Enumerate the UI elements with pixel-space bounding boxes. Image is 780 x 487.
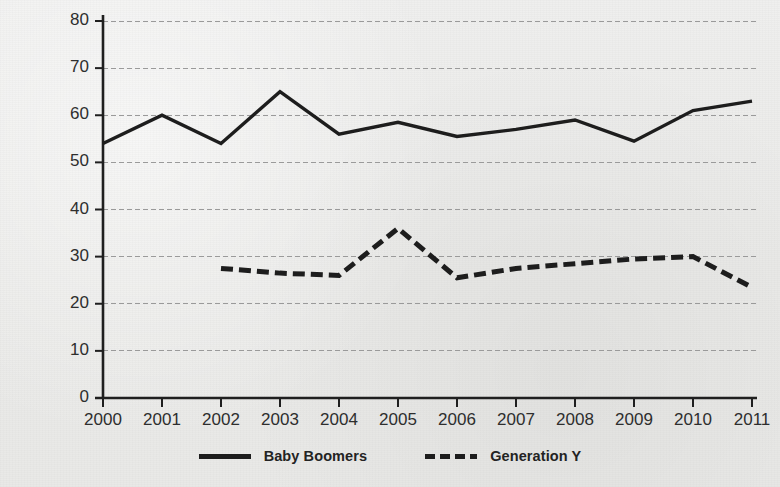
y-axis-tick-label: 50	[43, 151, 89, 171]
series-line-generation-y	[221, 228, 752, 287]
x-axis-tick-label: 2007	[486, 410, 546, 430]
legend-label-baby-boomers: Baby Boomers	[264, 448, 368, 464]
chart-figure: % agree 01020304050607080200020012002200…	[0, 0, 780, 487]
legend-item-baby-boomers: Baby Boomers	[199, 448, 368, 464]
x-axis-tick-label: 2002	[191, 410, 251, 430]
x-axis-tick-label: 2011	[722, 410, 780, 430]
x-axis-tick-label: 2009	[604, 410, 664, 430]
y-axis-tick-label: 0	[43, 387, 89, 407]
x-axis-tick-label: 2001	[132, 410, 192, 430]
y-axis-tick-label: 20	[43, 293, 89, 313]
x-axis-tick-label: 2008	[545, 410, 605, 430]
y-axis-tick-label: 70	[43, 57, 89, 77]
y-axis-tick-label: 60	[43, 104, 89, 124]
x-axis-tick-label: 2006	[427, 410, 487, 430]
legend-label-generation-y: Generation Y	[490, 448, 581, 464]
x-axis-tick-label: 2003	[250, 410, 310, 430]
x-axis-tick-label: 2004	[309, 410, 369, 430]
y-axis-tick-label: 80	[43, 10, 89, 30]
y-axis-tick-label: 40	[43, 199, 89, 219]
x-axis-tick-label: 2010	[663, 410, 723, 430]
y-axis-tick-label: 30	[43, 246, 89, 266]
legend-swatch-solid-line-icon	[199, 454, 251, 459]
legend-item-generation-y: Generation Y	[425, 448, 581, 464]
chart-legend: Baby Boomers Generation Y	[0, 448, 780, 464]
legend-swatch-dashed-line-icon	[425, 454, 477, 459]
y-axis-tick-label: 10	[43, 340, 89, 360]
x-axis-tick-label: 2005	[368, 410, 428, 430]
x-axis-tick-label: 2000	[73, 410, 133, 430]
series-line-baby-boomers	[103, 92, 752, 144]
